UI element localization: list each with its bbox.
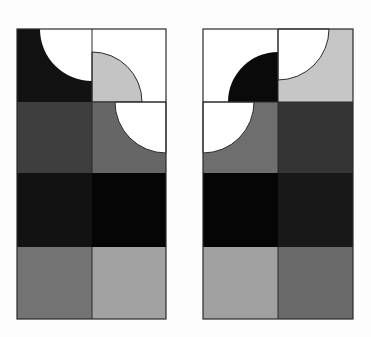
tile-left-r4-c1 bbox=[17, 247, 92, 319]
right-panel bbox=[203, 29, 353, 319]
tile-right-r3-c1 bbox=[203, 173, 278, 247]
tile-left-r3-c1 bbox=[17, 173, 92, 247]
tile-left-r3-c2 bbox=[92, 173, 166, 247]
tile-right-r4-c2 bbox=[278, 247, 353, 319]
illusion-diagram bbox=[0, 0, 371, 337]
tile-left-r2-c1 bbox=[17, 102, 92, 173]
tile-right-r3-c2 bbox=[278, 173, 353, 247]
left-panel bbox=[17, 29, 166, 319]
tile-right-r4-c1 bbox=[203, 247, 278, 319]
tile-left-r4-c2 bbox=[92, 247, 166, 319]
tile-right-r2-c2 bbox=[278, 102, 353, 173]
